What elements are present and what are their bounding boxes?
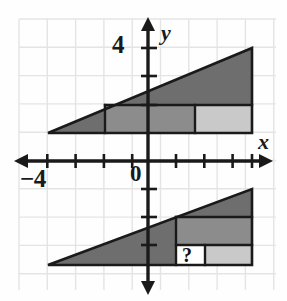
geometry-figure: 4 −4 0 x y ? <box>0 0 287 301</box>
x-axis-label: x <box>258 131 269 153</box>
lower-triangle-medium-band <box>176 217 252 245</box>
coordinate-grid-svg <box>0 0 287 301</box>
x-axis-tick-label-negative-4: −4 <box>20 166 46 191</box>
question-mark-label: ? <box>182 245 192 265</box>
lower-triangle <box>48 189 252 265</box>
y-axis-tick-label-4: 4 <box>112 32 125 57</box>
y-axis-down-arrow <box>141 281 155 295</box>
lower-triangle-light-cell <box>205 245 252 265</box>
origin-label: 0 <box>130 162 142 185</box>
upper-triangle-light-cell <box>195 105 252 133</box>
x-axis-right-arrow <box>259 154 273 168</box>
upper-triangle <box>48 48 252 133</box>
y-axis-label: y <box>161 22 171 44</box>
